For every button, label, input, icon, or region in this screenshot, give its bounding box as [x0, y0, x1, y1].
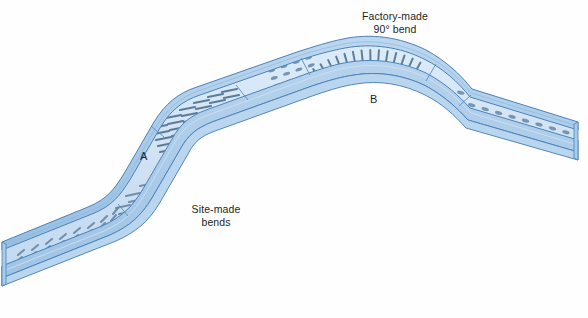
label-site-made-bends: Site-madebends [176, 203, 256, 229]
marker-label-a: A [140, 150, 147, 163]
label-factory-made-line2: 90° bend [374, 23, 417, 35]
cable-tray-diagram: Factory-made90° bend Site-madebends A B [0, 0, 588, 318]
label-site-made-line2: bends [201, 216, 230, 228]
label-site-made-line1: Site-made [192, 203, 241, 215]
right-end-cap [574, 122, 578, 160]
tray-illustration [0, 0, 588, 318]
label-factory-made-line1: Factory-made [362, 10, 428, 22]
left-end-cap [2, 242, 6, 286]
marker-label-b: B [370, 93, 377, 106]
label-factory-made-bend: Factory-made90° bend [340, 10, 450, 36]
tray-end-caps [2, 122, 578, 286]
